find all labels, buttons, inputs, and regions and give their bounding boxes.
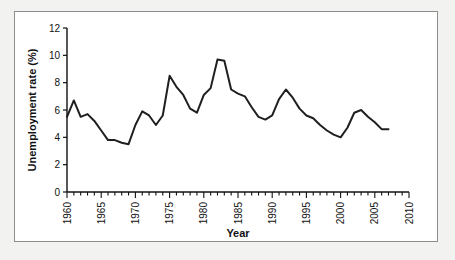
- figure-panel: [14, 11, 438, 242]
- figure-root: 0246810121960196519701975198019851990199…: [0, 0, 455, 260]
- source-note: [16, 249, 316, 258]
